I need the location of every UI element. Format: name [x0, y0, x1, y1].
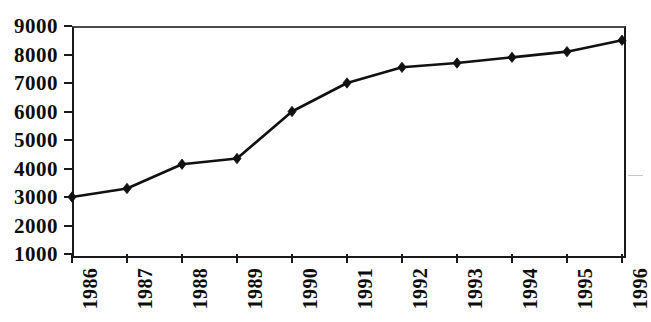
x-axis-tick-label: 1987: [135, 268, 155, 309]
x-axis-tick-label: 1996: [630, 268, 650, 309]
x-axis-tick-label: 1988: [190, 268, 210, 309]
x-axis-tick-label: 1989: [245, 268, 265, 309]
scan-artifact: [628, 175, 643, 176]
x-axis-tick-label: 1994: [520, 268, 540, 309]
x-axis-tick-label: 1992: [410, 268, 430, 309]
x-axis-tick-label: 1986: [80, 268, 100, 309]
x-axis-tick-label: 1990: [300, 268, 320, 309]
x-axis-tick-label: 1995: [575, 268, 595, 309]
x-axis-tick-label: 1993: [465, 268, 485, 309]
x-axis-tick-label: 1991: [355, 268, 375, 309]
